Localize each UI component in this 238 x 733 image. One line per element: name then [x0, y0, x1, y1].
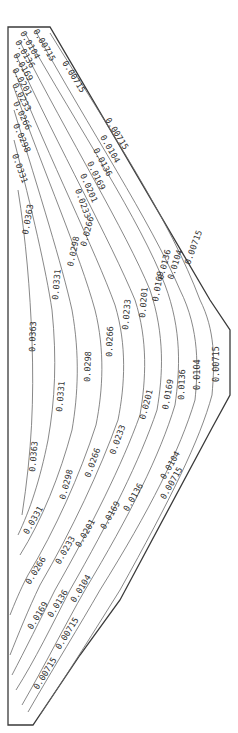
- label-0.0331-e: 0.0331: [54, 381, 67, 412]
- label-0.0104-e: 0.0104: [192, 359, 202, 390]
- label-0.0201-f: 0.0201: [73, 517, 97, 549]
- label-0.0363-b: 0.0363: [27, 321, 38, 352]
- label-0.0363-a: 0.0363: [20, 203, 35, 235]
- contour-0.00715: [40, 33, 214, 715]
- label-0.0298-c: 0.0298: [65, 235, 81, 267]
- label-0.00715-e: 0.00715: [211, 346, 221, 382]
- label-0.0331: 0.0331: [10, 152, 30, 184]
- contour-labels: 0.00715 0.0104 0.0136 0.0169 0.0201 0.02…: [10, 27, 221, 691]
- label-0.0363-c: 0.0363: [27, 441, 40, 472]
- contour-plot: 0.00715 0.0104 0.0136 0.0169 0.0201 0.02…: [0, 0, 238, 733]
- label-0.0169-e: 0.0169: [160, 378, 175, 410]
- label-0.0266-f: 0.0266: [82, 446, 102, 478]
- label-0.00715-b: 0.00715: [60, 59, 87, 95]
- label-0.0298-e: 0.0298: [82, 351, 93, 382]
- label-0.0136-e: 0.0136: [176, 369, 187, 400]
- label-0.0266-e: 0.0266: [104, 326, 115, 357]
- label-0.0169-d: 0.0169: [150, 270, 165, 302]
- label-0.0104-g: 0.0104: [68, 573, 93, 604]
- label-0.0201-e: 0.0201: [137, 388, 155, 420]
- label-0.0331-c: 0.0331: [50, 269, 63, 300]
- label-0.00715-h: 0.00715: [31, 655, 58, 691]
- label-0.0266-g: 0.0266: [23, 555, 48, 586]
- label-0.0201-d: 0.0201: [137, 287, 150, 318]
- label-0.0169-f: 0.0169: [98, 499, 122, 531]
- label-0.0298-f: 0.0298: [57, 468, 75, 500]
- label-0.0266-c: 0.0266: [78, 215, 96, 247]
- label-0.00715-d: 0.00715: [182, 229, 204, 266]
- label-0.0233-d: 0.0233: [120, 299, 133, 330]
- label-0.0233-f2: 0.0233: [53, 534, 77, 566]
